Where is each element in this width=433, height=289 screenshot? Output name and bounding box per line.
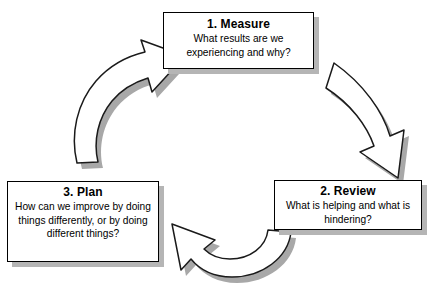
stage-box-review: 2. Review What is helping and what is hi… bbox=[274, 180, 422, 230]
arrow-measure-to-review bbox=[326, 63, 409, 184]
stage-title-measure: 1. Measure bbox=[164, 17, 313, 32]
stage-box-measure: 1. Measure What results are we experienc… bbox=[163, 12, 314, 69]
stage-desc-measure-line-1: What results are we bbox=[164, 32, 313, 45]
diagram-canvas: 1. Measure What results are we experienc… bbox=[0, 0, 433, 289]
stage-desc-review-line-1: What is helping and what is bbox=[275, 199, 421, 212]
stage-title-plan: 3. Plan bbox=[8, 185, 158, 200]
stage-desc-measure-line-2: experiencing and why? bbox=[164, 46, 313, 59]
stage-box-plan: 3. Plan How can we improve by doing thin… bbox=[7, 181, 159, 262]
arrow-review-to-plan bbox=[172, 224, 296, 283]
stage-desc-plan-line-3: different things? bbox=[8, 227, 158, 240]
stage-title-review: 2. Review bbox=[275, 184, 421, 199]
stage-desc-plan-line-1: How can we improve by doing bbox=[8, 200, 158, 213]
stage-desc-plan-line-2: things differently, or by doing bbox=[8, 214, 158, 227]
stage-desc-review-line-2: hindering? bbox=[275, 213, 421, 226]
